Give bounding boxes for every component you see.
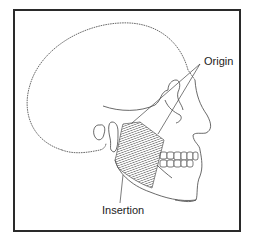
- origin-label: Origin: [204, 56, 233, 67]
- teeth: [160, 152, 198, 167]
- cranium-outline: [27, 23, 195, 150]
- insertion-label: Insertion: [102, 205, 144, 216]
